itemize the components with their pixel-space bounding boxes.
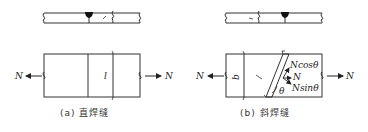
length-label: l: [104, 71, 107, 81]
panel-a-plan-view: [43, 51, 141, 100]
nsin-label: Nsinθ: [291, 83, 319, 93]
force-label-right: N: [345, 71, 355, 81]
ncos-label: Ncosθ: [289, 60, 319, 70]
angle-label: θ: [279, 86, 285, 96]
weld-symbol-icon: [281, 12, 289, 18]
n-resultant-label: N: [292, 72, 302, 82]
panel-b-section-view: [225, 11, 323, 23]
weld-symbol-icon: [85, 12, 93, 18]
caption-a: (a) 直焊缝: [60, 106, 109, 119]
width-label: b: [231, 74, 241, 80]
butt-weld-diagram: l N N b θ Ncosθ N Nsinθ N N: [0, 0, 368, 132]
ncos-arrow: [283, 68, 289, 78]
oblique-weld-band: [266, 54, 289, 97]
force-label-right: N: [164, 71, 174, 81]
nsin-arrow: [283, 78, 291, 84]
caption-b: (b) 斜焊缝: [240, 106, 290, 119]
force-label-left: N: [195, 71, 205, 81]
force-label-left: N: [14, 71, 24, 81]
